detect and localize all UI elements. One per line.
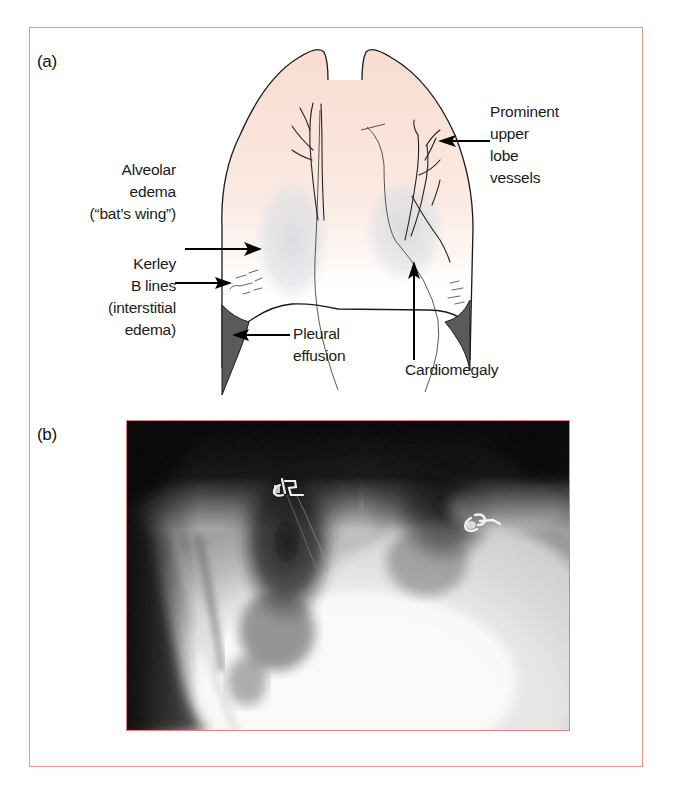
annotation-line: Pleural — [293, 323, 345, 345]
annotation-line: B lines — [108, 275, 176, 297]
annotation-line: Cardiomegaly — [405, 359, 498, 381]
annotation-line: effusion — [293, 345, 345, 367]
annotation-line: Alveolar — [90, 159, 177, 181]
annotation-line: Prominent — [490, 101, 559, 123]
chest-xray-image — [126, 420, 570, 731]
annotation-upper-lobe-vessels: Prominent upper lobe vessels — [490, 101, 559, 189]
annotation-cardiomegaly: Cardiomegaly — [405, 359, 498, 381]
annotation-line: edema) — [108, 319, 176, 341]
annotation-line: lobe — [490, 145, 559, 167]
annotation-alveolar-edema: Alveolar edema (“bat’s wing”) — [90, 159, 177, 225]
annotation-line: edema — [90, 181, 177, 203]
annotation-kerley-b-lines: Kerley B lines (interstitial edema) — [108, 253, 176, 341]
annotation-line: Kerley — [108, 253, 176, 275]
annotation-pleural-effusion: Pleural effusion — [293, 323, 345, 367]
panel-b-label: (b) — [37, 425, 57, 445]
annotation-line: upper — [490, 123, 559, 145]
annotation-line: vessels — [490, 167, 559, 189]
annotation-line: (“bat’s wing”) — [90, 203, 177, 225]
annotation-line: (interstitial — [108, 297, 176, 319]
